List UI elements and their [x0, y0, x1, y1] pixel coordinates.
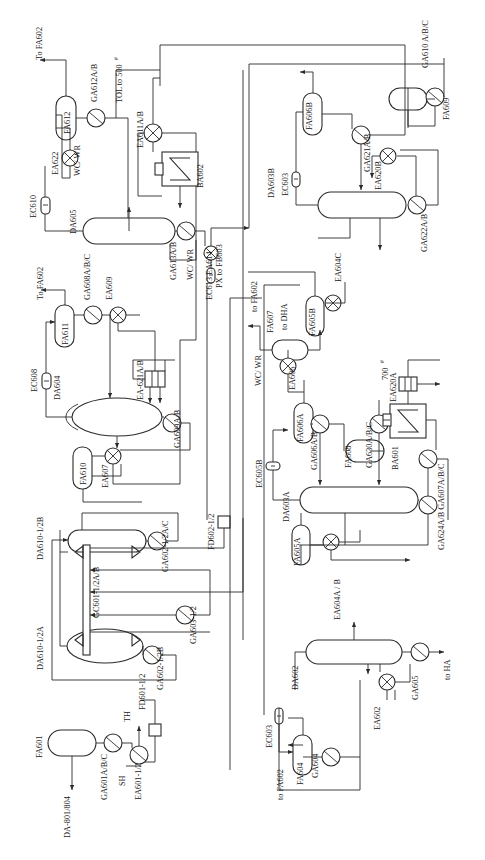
label-ga605: GA605: [411, 676, 420, 700]
label-ec603-bot: EC603: [265, 725, 274, 748]
label-ga608abc: GA608A/B/C: [83, 253, 92, 300]
label-fa606a: FA606A: [296, 414, 305, 442]
label-ea611ab: EA611A/B: [136, 111, 145, 148]
label-sh: SH: [118, 775, 127, 786]
label-ec603-top: EC603: [281, 173, 290, 196]
label-fa610: FA610: [79, 463, 88, 485]
label-ec610: EC610: [29, 195, 38, 218]
label-fd602-1-2: FD602‑1/2: [207, 514, 216, 550]
label-ba602: BA602: [196, 164, 205, 188]
label-ea620a: EA620A: [389, 372, 398, 402]
label-ea604c: EA604C: [334, 252, 343, 282]
label-ga630abc: GA630A/B/C: [365, 421, 374, 468]
label-ea622: EA622: [51, 151, 60, 175]
label-ga609ab: GA609A/B: [173, 409, 182, 448]
label-ec608: EC608: [30, 369, 39, 392]
label-tol-to-500: TOL to 500: [115, 64, 124, 103]
label-ea609: EA609: [105, 276, 114, 300]
label-ec613-ea614: EC613 EA614: [205, 251, 214, 300]
label-ga612ab: GA612A/B: [90, 63, 99, 102]
label-to-dha: to DHA: [280, 303, 289, 330]
label-gc601: GC601‑1/2A/B: [92, 566, 101, 618]
label-da-801-804: DA‑801/804: [63, 795, 72, 838]
label-fa605a: FA605A: [293, 538, 302, 566]
label-to-fa602-2: To FA602: [36, 267, 45, 300]
label-700-superscript: #: [379, 360, 385, 363]
label-fa605b: FA605B: [308, 308, 317, 336]
label-ea604ab: EA604A / B: [333, 579, 342, 620]
label-wcwr-3: WC/ WR: [254, 355, 263, 386]
label-da603a: DA603A: [282, 492, 291, 522]
label-wcwr-1: WC/ WR: [73, 145, 82, 176]
label-ga613ab: GA613A/B: [169, 241, 178, 280]
label-fa607: FA607: [266, 311, 275, 333]
label-ga621ab: GA621A/B: [363, 133, 372, 172]
label-da603b: DA603B: [267, 168, 276, 198]
label-wcwr-2: WC/ WR: [186, 249, 195, 280]
label-da602: DA602: [291, 666, 300, 690]
label-fa601: FA601: [35, 736, 44, 758]
label-ga624-ga607: GA624A/B GA607A/B/C: [437, 463, 446, 550]
label-fa608: FA608: [344, 446, 353, 468]
label-fa611: FA611: [61, 323, 70, 345]
label-ea602: EA602: [373, 706, 382, 730]
label-ga601abc: GA601A/B/C: [100, 753, 109, 800]
label-fd601-1-2: FD601‑1/2: [138, 674, 147, 710]
label-ga602-1-2b: GA602‑1/2B: [156, 646, 165, 690]
label-ga622ab: GA622A/B: [420, 213, 429, 252]
label-to-fa602-top: To FA602: [35, 27, 44, 60]
label-ba601: BA601: [391, 446, 400, 470]
label-da605: DA605: [69, 210, 78, 234]
group-da603b: [160, 45, 444, 250]
group-fa601: [48, 726, 148, 790]
label-ga603-1-2: GA603‑1/2: [189, 606, 198, 644]
label-da610-1-2a: DA610‑1/2A: [36, 626, 45, 670]
label-ea601-1-2: EA601‑1/2: [134, 763, 143, 800]
label-px-to-fb603: PX to FB603: [215, 244, 224, 288]
label-tol-superscript: #: [113, 57, 119, 60]
label-ga610abc: GA610 A/B/C: [421, 20, 430, 68]
label-ga602-1-2ac: GA602‑1/2A/C: [161, 520, 170, 572]
pfd-canvas: To FA602 GA612A/B TOL to 500 # FA612 EA6…: [0, 0, 485, 860]
label-fa606b: FA606B: [305, 102, 314, 130]
process-flow-diagram: To FA602 GA612A/B TOL to 500 # FA612 EA6…: [0, 0, 485, 860]
label-ea620b: EA620B: [374, 160, 383, 190]
label-fa612: FA612: [63, 112, 72, 134]
label-ga604: GA604: [311, 753, 320, 778]
label-fa604: FA604: [296, 762, 305, 785]
label-to-ha: to HA: [443, 659, 452, 680]
label-ea606: EA606: [288, 366, 297, 390]
label-ga606ab: GA606A/B: [310, 431, 319, 470]
label-ea607: EA607: [101, 464, 110, 488]
label-fa609: FA609: [442, 98, 451, 120]
label-ec605b: EC605B: [255, 459, 264, 488]
label-ea621ab: EA‑621A/B: [136, 359, 145, 400]
label-da610-1-2b: DA610‑1/2B: [36, 516, 45, 560]
group-da603a: [248, 272, 448, 565]
label-da604: DA604: [53, 375, 62, 400]
label-to-fa602-3: to FA602: [250, 281, 259, 312]
label-th: TH: [123, 711, 132, 722]
label-to-fa602-4: to FA602: [276, 769, 285, 800]
